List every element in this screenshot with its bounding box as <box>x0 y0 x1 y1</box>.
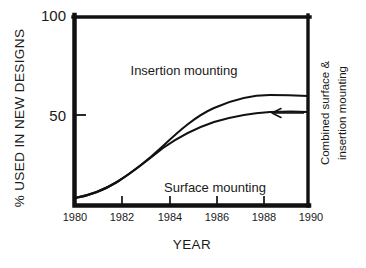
chart-figure: 100 50 1980 1982 1984 1986 1988 1990 YEA… <box>0 0 366 268</box>
insertion-mounting-label: Insertion mounting <box>131 63 238 78</box>
combined-callout-line2: insertion mounting <box>336 66 348 160</box>
y-tick-label-50: 50 <box>49 107 66 124</box>
surface-mounting-label: Surface mounting <box>164 180 266 195</box>
x-tick-label-1980: 1980 <box>63 211 87 223</box>
y-tick-label-100: 100 <box>41 7 66 24</box>
x-tick-label-1986: 1986 <box>205 211 229 223</box>
x-tick-label-1988: 1988 <box>252 211 276 223</box>
y-axis-title: % USED IN NEW DESIGNS <box>12 29 27 208</box>
x-tick-label-1982: 1982 <box>110 211 134 223</box>
x-tick-label-1990: 1990 <box>299 211 323 223</box>
chart-svg: 100 50 1980 1982 1984 1986 1988 1990 YEA… <box>0 0 366 268</box>
x-axis-title: YEAR <box>173 237 211 252</box>
x-tick-label-1984: 1984 <box>158 211 182 223</box>
combined-callout-line1: Combined surface & <box>319 61 331 166</box>
